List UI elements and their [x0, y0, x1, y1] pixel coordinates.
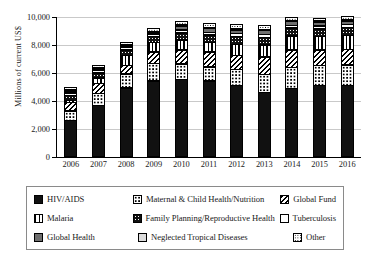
legend-item[interactable]: Neglected Tropical Diseases — [138, 232, 293, 242]
stacked-bar[interactable] — [175, 21, 188, 157]
y-axis-title: Millions of current US$ — [14, 0, 23, 137]
y-axis-tick-label: 10,000 — [27, 13, 50, 22]
stacked-bar[interactable] — [258, 26, 271, 157]
bar-slot — [306, 17, 334, 157]
x-axis-tick-label: 2011 — [195, 160, 223, 169]
legend-item[interactable]: Maternal & Child Health/Nutrition — [133, 194, 280, 204]
legend-row: Global HealthNeglected Tropical Diseases… — [34, 229, 336, 246]
bar-segment — [120, 88, 133, 157]
bar-segment — [313, 65, 326, 85]
bar-segment — [258, 57, 271, 75]
legend-label: Other — [306, 232, 325, 242]
bar-segment — [147, 63, 160, 81]
bar-segment — [175, 79, 188, 157]
swatch-solid-black-icon — [34, 195, 43, 204]
swatch-diagonal-hatch-icon — [280, 195, 289, 204]
stacked-bar[interactable] — [285, 18, 298, 157]
bar-segment — [64, 120, 77, 157]
bar-slot — [195, 17, 223, 157]
bar-segment — [258, 45, 271, 58]
y-axis-tick — [52, 129, 56, 130]
bar-segment — [313, 85, 326, 157]
y-axis-tick-label: 4,000 — [31, 97, 50, 106]
x-axis-tick-label: 2014 — [278, 160, 306, 169]
bar-segment — [285, 67, 298, 89]
bar-slot — [223, 17, 251, 157]
bar-segment — [230, 69, 243, 85]
legend-item[interactable]: Global Fund — [280, 194, 336, 204]
bar-segment — [175, 50, 188, 65]
legend-row: HIV/AIDSMaternal & Child Health/Nutritio… — [34, 191, 336, 208]
y-axis-tick-label: 0 — [46, 153, 50, 162]
y-axis-tick-label: 8,000 — [31, 41, 50, 50]
stacked-bar[interactable] — [341, 17, 354, 157]
bar-slot — [333, 17, 361, 157]
bar-slot — [140, 17, 168, 157]
plot-area: Millions of current US$ 02,0004,0006,000… — [0, 0, 371, 178]
legend-item[interactable]: Malaria — [34, 213, 133, 223]
bar-group — [57, 17, 361, 157]
y-axis-tick — [52, 45, 56, 46]
x-axis-labels: 2006200720082009201020112012201320142015… — [57, 160, 361, 169]
swatch-white-empty-icon — [280, 214, 289, 223]
chart-figure: Millions of current US$ 02,0004,0006,000… — [0, 0, 371, 259]
stacked-bar[interactable] — [313, 18, 326, 157]
swatch-fine-dots-icon — [293, 233, 302, 242]
swatch-vertical-hatch-icon — [34, 214, 43, 223]
bar-segment — [341, 35, 354, 50]
legend-row: MalariaFamily Planning/Reproductive Heal… — [34, 210, 336, 227]
stacked-bar[interactable] — [120, 42, 133, 157]
bar-segment — [285, 50, 298, 68]
x-axis-tick-label: 2006 — [57, 160, 85, 169]
bar-segment — [175, 64, 188, 80]
bar-segment — [120, 74, 133, 89]
bar-slot — [168, 17, 196, 157]
bar-segment — [147, 81, 160, 157]
legend-item[interactable]: Global Health — [34, 232, 138, 242]
bar-segment — [258, 92, 271, 157]
bar-slot — [112, 17, 140, 157]
swatch-black-white-dots-icon — [133, 214, 142, 223]
x-axis-tick-label: 2013 — [250, 160, 278, 169]
bar-slot — [278, 17, 306, 157]
stacked-bar[interactable] — [92, 65, 105, 157]
chart-legend: HIV/AIDSMaternal & Child Health/Nutritio… — [26, 186, 344, 250]
legend-item[interactable]: Tuberculosis — [280, 213, 337, 223]
x-axis-tick-label: 2015 — [306, 160, 334, 169]
bar-segment — [258, 74, 271, 92]
x-axis-tick-label: 2012 — [223, 160, 251, 169]
bar-segment — [92, 93, 105, 106]
stacked-bar[interactable] — [203, 23, 216, 157]
stacked-bar[interactable] — [64, 88, 77, 157]
stacked-bar[interactable] — [147, 29, 160, 157]
bar-segment — [147, 52, 160, 64]
bar-slot — [57, 17, 85, 157]
legend-label: Neglected Tropical Diseases — [151, 232, 248, 242]
legend-item[interactable]: HIV/AIDS — [34, 194, 133, 204]
bar-slot — [250, 17, 278, 157]
swatch-solid-gray-icon — [34, 233, 43, 242]
bar-segment — [285, 36, 298, 51]
bar-segment — [203, 67, 216, 82]
legend-item[interactable]: Other — [293, 232, 336, 242]
legend-label: Maternal & Child Health/Nutrition — [146, 194, 264, 204]
bar-segment — [313, 50, 326, 66]
x-axis-line — [56, 157, 361, 158]
x-axis-tick-label: 2016 — [333, 160, 361, 169]
y-axis-tick — [52, 17, 56, 18]
stacked-bar[interactable] — [230, 25, 243, 157]
axes: 02,0004,0006,0008,00010,000 — [56, 17, 361, 158]
x-axis-tick-label: 2010 — [168, 160, 196, 169]
x-axis-tick-label: 2008 — [112, 160, 140, 169]
legend-label: Tuberculosis — [293, 213, 337, 223]
bar-segment — [285, 88, 298, 157]
legend-label: Malaria — [47, 213, 73, 223]
bar-segment — [230, 85, 243, 157]
x-axis-tick-label: 2009 — [140, 160, 168, 169]
legend-item[interactable]: Family Planning/Reproductive Health — [133, 213, 280, 223]
bar-segment — [341, 49, 354, 65]
y-axis-tick-label: 6,000 — [31, 69, 50, 78]
legend-label: Global Fund — [293, 194, 336, 204]
y-axis-tick — [52, 73, 56, 74]
bar-segment — [341, 65, 354, 86]
